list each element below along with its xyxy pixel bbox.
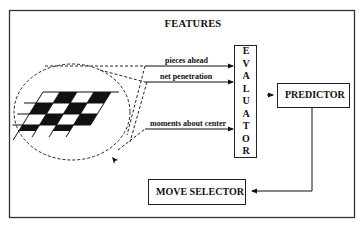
evaluator-letter: A — [235, 108, 257, 121]
mouse-pointer-icon — [112, 157, 118, 164]
evaluator-letter: U — [235, 95, 257, 108]
evaluator-letter: E — [235, 45, 257, 58]
checkerboard-icon — [1, 92, 119, 140]
feature-label-net-penetration: net penetration — [160, 72, 212, 81]
evaluator-letter: T — [235, 120, 257, 133]
evaluator-letter: R — [235, 145, 257, 158]
evaluator-label: E V A L U A T O R — [235, 45, 257, 158]
features-title: FEATURES — [0, 18, 362, 29]
predictor-label: PREDICTOR — [285, 89, 345, 100]
arrow-predictor-move-selector — [252, 108, 312, 191]
evaluator-letter: L — [235, 83, 257, 96]
projection-lines — [45, 66, 147, 150]
feature-label-pieces-ahead: pieces ahead — [165, 56, 208, 65]
evaluator-letter: V — [235, 58, 257, 71]
feature-label-moments-about-center: moments about center — [150, 119, 226, 128]
move-selector-label: MOVE SELECTOR — [156, 186, 244, 197]
evaluator-letter: O — [235, 133, 257, 146]
evaluator-letter: A — [235, 70, 257, 83]
